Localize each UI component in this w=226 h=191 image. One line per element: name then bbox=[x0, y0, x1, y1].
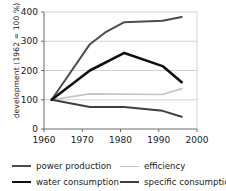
legend-label-water-consumption: water consumption bbox=[36, 177, 119, 187]
chart-figure: development (1962 = 100 %) 0100200300400… bbox=[0, 0, 226, 191]
series-line-specific-consumption bbox=[52, 100, 182, 117]
x-tick-label: 1960 bbox=[33, 135, 56, 145]
legend-swatch-specific-consumption bbox=[120, 181, 139, 183]
x-tick-label: 1990 bbox=[147, 135, 170, 145]
y-tick-label: 200 bbox=[21, 66, 38, 76]
x-tick-labels: 19601970198019902000 bbox=[33, 135, 209, 145]
legend-swatch-water-consumption bbox=[12, 181, 31, 183]
series-line-efficiency bbox=[52, 89, 182, 100]
x-tick-label: 2000 bbox=[186, 135, 209, 145]
legend-row-2: water consumption specific consumption bbox=[12, 174, 224, 190]
legend-item-power-production[interactable]: power production bbox=[12, 158, 120, 174]
series-line-power-production bbox=[52, 17, 182, 100]
x-tick-label: 1970 bbox=[71, 135, 94, 145]
y-tick-label: 300 bbox=[21, 36, 38, 46]
legend-label-power-production: power production bbox=[36, 161, 111, 171]
chart-legend: power production efficiency water consum… bbox=[12, 158, 224, 190]
legend-label-efficiency: efficiency bbox=[144, 161, 185, 171]
legend-label-specific-consumption: specific consumption bbox=[144, 177, 226, 187]
legend-swatch-power-production bbox=[12, 165, 31, 167]
y-tick-label: 0 bbox=[32, 124, 38, 134]
legend-item-water-consumption[interactable]: water consumption bbox=[12, 174, 120, 190]
x-tick-label: 1980 bbox=[109, 135, 132, 145]
series-line-water-consumption bbox=[52, 53, 182, 100]
y-tick-label: 400 bbox=[21, 7, 38, 17]
legend-item-efficiency[interactable]: efficiency bbox=[120, 158, 224, 174]
y-tick-label: 100 bbox=[21, 95, 38, 105]
legend-swatch-efficiency bbox=[120, 166, 139, 167]
data-series bbox=[52, 17, 182, 117]
legend-item-specific-consumption[interactable]: specific consumption bbox=[120, 174, 224, 190]
legend-row-1: power production efficiency bbox=[12, 158, 224, 174]
y-tick-labels: 0100200300400 bbox=[21, 7, 38, 134]
